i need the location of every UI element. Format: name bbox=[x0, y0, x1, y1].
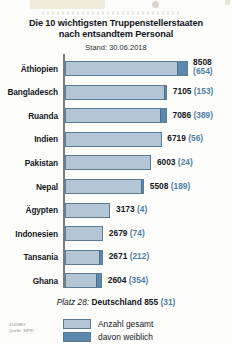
bar-total bbox=[65, 273, 103, 288]
chart-row: Nepal5508 (189) bbox=[0, 175, 232, 199]
bar-value-label: 6719 (56) bbox=[167, 134, 203, 144]
bar-category-label: Pakistan bbox=[0, 158, 58, 168]
germany-rank-note: Platz 28: Deutschland 855 (31) bbox=[0, 297, 232, 307]
bar-total bbox=[65, 132, 162, 147]
bar-value-label: 2671 (212) bbox=[109, 252, 150, 262]
bar-value-label: 8508(654) bbox=[193, 58, 213, 77]
scan-artifact-band bbox=[30, 0, 105, 9]
bar-value-female: (212) bbox=[130, 251, 150, 261]
bar-category-label: Bangladesch bbox=[0, 87, 58, 97]
chart-row: Pakistan6003 (24) bbox=[0, 151, 232, 175]
chart-legend: Anzahl gesamt davon weiblich bbox=[63, 318, 153, 344]
bar-female-segment bbox=[99, 251, 102, 264]
bar-female-segment bbox=[96, 274, 101, 287]
bar-female-segment bbox=[164, 86, 166, 99]
bar-value-label: 6003 (24) bbox=[157, 158, 193, 168]
scan-artifact-dot bbox=[152, 1, 159, 8]
chart-row: Ghana2604 (354) bbox=[0, 269, 232, 293]
bar-category-label: Tansania bbox=[0, 252, 58, 262]
germany-rank-label: Platz 28: bbox=[57, 297, 90, 307]
bar-value-total: 7105 bbox=[173, 86, 192, 96]
bar-total bbox=[65, 250, 104, 265]
bar-total bbox=[65, 61, 188, 76]
chart-row: Bangladesch7105 (153) bbox=[0, 81, 232, 105]
credits-block: 41459EX Quelle: SIPRI bbox=[9, 322, 34, 333]
bar-category-label: Äthiopien bbox=[0, 64, 58, 74]
bar-female-segment bbox=[160, 109, 166, 122]
legend-swatch-female-icon bbox=[63, 332, 91, 342]
bar-value-total: 2679 bbox=[109, 228, 128, 238]
chart-row: Äthiopien8508(654) bbox=[0, 57, 232, 81]
legend-label-total: Anzahl gesamt bbox=[98, 319, 153, 329]
chart-title-line-1: Die 10 wichtigsten Truppenstellerstaaten bbox=[0, 18, 232, 29]
bar-value-label: 2604 (354) bbox=[108, 276, 149, 286]
legend-item-female: davon weiblich bbox=[63, 331, 153, 343]
bar-value-female: (4) bbox=[137, 204, 147, 214]
bar-value-total: 2671 bbox=[109, 251, 128, 261]
bar-value-total: 3173 bbox=[116, 204, 135, 214]
bar-value-female: (153) bbox=[194, 86, 214, 96]
bar-total bbox=[65, 85, 168, 100]
source-label: Quelle: SIPRI bbox=[9, 328, 34, 334]
bar-category-label: Nepal bbox=[0, 182, 58, 192]
bar-value-total: 5508 bbox=[150, 181, 169, 191]
chart-row: Ruanda7086 (389) bbox=[0, 104, 232, 128]
bar-total bbox=[65, 155, 152, 170]
chart-row: Tansania2671 (212) bbox=[0, 246, 232, 270]
germany-total-value: 855 bbox=[144, 297, 158, 307]
bar-category-label: Ruanda bbox=[0, 111, 58, 121]
bar-value-label: 5508 (189) bbox=[150, 182, 191, 192]
bar-value-female: (24) bbox=[178, 157, 193, 167]
bar-value-label: 2679 (74) bbox=[109, 229, 145, 239]
bar-value-label: 7086 (389) bbox=[173, 111, 214, 121]
bar-category-label: Ägypten bbox=[0, 205, 58, 215]
bar-value-total: 7086 bbox=[173, 110, 192, 120]
bar-value-total: 2604 bbox=[108, 275, 127, 285]
germany-female-value: (31) bbox=[160, 297, 175, 307]
bar-value-label: 3173 (4) bbox=[116, 205, 147, 215]
scan-artifact-corner bbox=[225, 0, 230, 5]
bar-female-segment bbox=[177, 62, 186, 75]
bar-female-segment bbox=[141, 180, 144, 193]
bar-value-total: 6719 bbox=[167, 133, 186, 143]
bar-total bbox=[65, 203, 111, 218]
chart-subtitle-date: Stand: 30.06.2018 bbox=[0, 43, 232, 52]
bar-value-female: (654) bbox=[193, 66, 213, 76]
chart-row: Indonesien2679 (74) bbox=[0, 222, 232, 246]
chart-title-line-2: nach entsandtem Personal bbox=[0, 29, 232, 40]
bar-value-total: 6003 bbox=[157, 157, 176, 167]
chart-row: Indien6719 (56) bbox=[0, 128, 232, 152]
chart-row: Ägypten3173 (4) bbox=[0, 199, 232, 223]
bar-value-female: (189) bbox=[171, 181, 191, 191]
bar-value-female: (74) bbox=[130, 228, 145, 238]
bar-value-female: (389) bbox=[194, 110, 214, 120]
bar-total bbox=[65, 226, 104, 241]
bar-value-label: 7105 (153) bbox=[173, 87, 214, 97]
legend-swatch-total-icon bbox=[63, 319, 91, 329]
legend-label-female: davon weiblich bbox=[98, 332, 153, 342]
bar-value-female: (56) bbox=[188, 133, 203, 143]
bar-total bbox=[65, 108, 167, 123]
bar-chart: Äthiopien8508(654)Bangladesch7105 (153)R… bbox=[0, 54, 232, 292]
bar-category-label: Indonesien bbox=[0, 229, 58, 239]
scan-artifact-speckle bbox=[42, 11, 182, 15]
chart-title-block: Die 10 wichtigsten Truppenstellerstaaten… bbox=[0, 18, 232, 52]
bar-value-female: (354) bbox=[129, 275, 149, 285]
legend-item-total: Anzahl gesamt bbox=[63, 318, 153, 330]
bar-category-label: Ghana bbox=[0, 276, 58, 286]
bar-category-label: Indien bbox=[0, 134, 58, 144]
bar-total bbox=[65, 179, 145, 194]
infographic-root: Die 10 wichtigsten Truppenstellerstaaten… bbox=[0, 0, 232, 344]
germany-country-label: Deutschland bbox=[92, 297, 142, 307]
